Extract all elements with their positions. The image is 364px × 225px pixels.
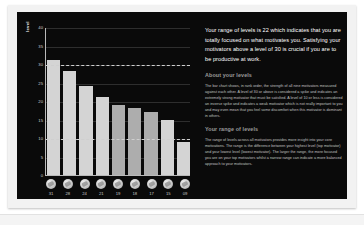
bar — [63, 71, 76, 175]
y-axis-tick: 10 — [38, 137, 43, 141]
x-axis-label: 17 — [147, 192, 157, 196]
x-axis-label: 24 — [80, 192, 90, 196]
motivator-bar-chart: level 0510152025303540 31282421191817150… — [25, 20, 197, 199]
x-axis-labels: 312824211918171509 — [46, 192, 190, 196]
explanation-panel: Your range of levels is 22 which indicat… — [205, 26, 343, 175]
report-card: level 0510152025303540 31282421191817150… — [17, 12, 347, 199]
x-axis-label: 18 — [130, 192, 140, 196]
bar — [177, 142, 190, 175]
section-body-your-range-of-levels: The range of levels across all motivator… — [205, 137, 343, 167]
y-axis-tick: 5 — [41, 155, 43, 159]
page-footer-strip — [0, 214, 364, 225]
motivator-icon-row — [46, 179, 190, 189]
chart-reference-line — [46, 139, 190, 140]
bar — [128, 108, 141, 175]
report-page: level 0510152025303540 31282421191817150… — [0, 0, 364, 225]
motivator-icon-4 — [96, 179, 106, 189]
motivator-icon-9 — [180, 179, 190, 189]
y-axis-tick: 20 — [38, 100, 43, 104]
bar-series — [47, 28, 190, 175]
motivator-icon-5 — [113, 179, 123, 189]
y-axis-tick: 25 — [38, 81, 43, 85]
motivator-icon-3 — [80, 179, 90, 189]
y-axis-ticks: 0510152025303540 — [31, 28, 43, 176]
y-axis-title: level — [25, 21, 30, 32]
intro-paragraph: Your range of levels is 22 which indicat… — [205, 26, 343, 64]
motivator-icon-1 — [46, 179, 56, 189]
motivator-icon-7 — [147, 179, 157, 189]
y-axis-tick: 15 — [38, 118, 43, 122]
x-axis-label: 19 — [113, 192, 123, 196]
section-heading-about-your-levels: About your levels — [205, 73, 343, 78]
x-axis-label: 09 — [180, 192, 190, 196]
y-axis-tick: 0 — [41, 174, 43, 178]
section-body-about-your-levels: The bar chart shows, in rank order, the … — [205, 83, 343, 120]
motivator-icon-2 — [63, 179, 73, 189]
y-axis-tick: 40 — [38, 26, 43, 30]
y-axis-tick: 35 — [38, 44, 43, 48]
chart-plot-area — [45, 28, 190, 176]
x-axis-label: 21 — [96, 192, 106, 196]
motivator-icon-8 — [163, 179, 173, 189]
section-heading-your-range-of-levels: Your range of levels — [205, 127, 343, 132]
x-axis-label: 15 — [163, 192, 173, 196]
chart-reference-line — [46, 65, 190, 66]
y-axis-tick: 30 — [38, 63, 43, 67]
x-axis-label: 31 — [46, 192, 56, 196]
bar — [96, 97, 109, 175]
bar — [161, 120, 174, 176]
x-axis-label: 28 — [63, 192, 73, 196]
bar — [144, 112, 157, 175]
report-sheet: level 0510152025303540 31282421191817150… — [8, 5, 356, 208]
motivator-icon-6 — [130, 179, 140, 189]
bar — [79, 86, 92, 175]
bar — [47, 60, 60, 175]
